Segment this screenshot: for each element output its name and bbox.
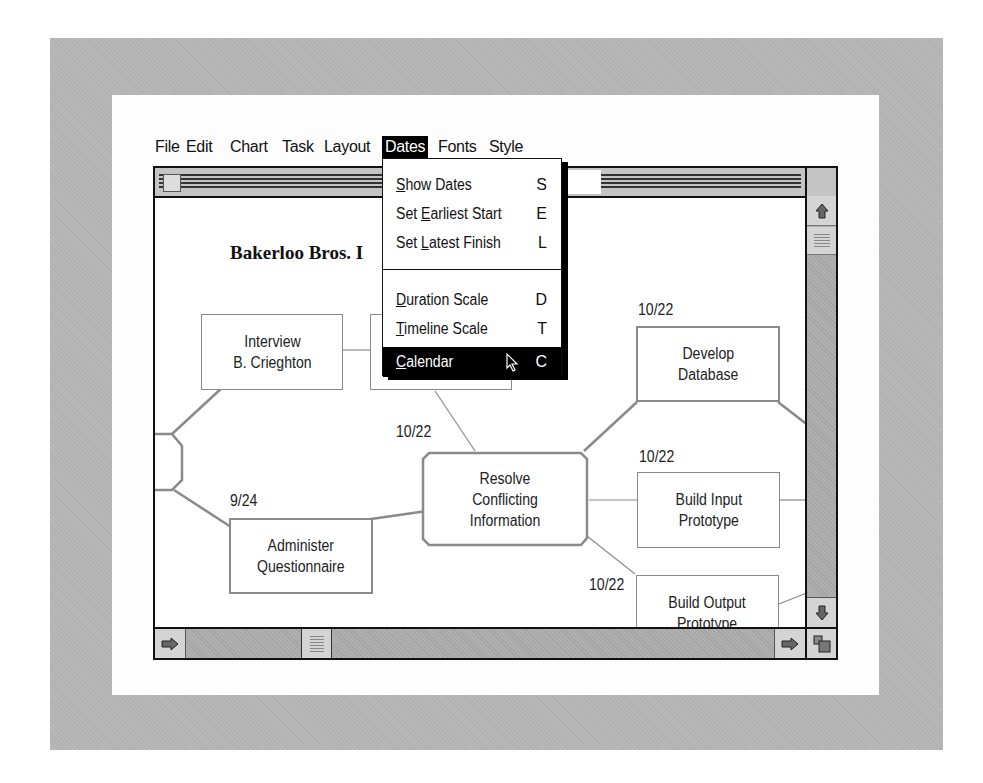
menu-task[interactable]: Task (282, 136, 314, 158)
node-label: Develop (678, 343, 738, 364)
node-label: Conflicting (470, 489, 540, 510)
menu-style[interactable]: Style (489, 136, 523, 158)
task-node-build-output[interactable]: Build OutputPrototype (636, 575, 779, 627)
menu-layout[interactable]: Layout (324, 136, 370, 158)
menu-item-set-latest-finish[interactable]: Set Latest Finish L (383, 230, 561, 256)
vertical-scroll-thumb[interactable] (807, 227, 836, 255)
menu-dates[interactable]: Dates (382, 136, 428, 158)
node-label: Build Input (675, 489, 742, 510)
menu-item-duration-scale[interactable]: Duration Scale D (383, 287, 561, 313)
arrow-down-icon (815, 605, 829, 621)
resize-icon (813, 635, 831, 653)
node-label: Prototype (675, 510, 742, 531)
zoom-box[interactable] (805, 168, 836, 198)
chart-title: Bakerloo Bros. I (230, 242, 363, 264)
task-node-administer[interactable]: AdministerQuestionnaire (229, 518, 373, 594)
node-label: Questionnaire (257, 556, 345, 577)
scroll-down-button[interactable] (807, 597, 836, 627)
arrow-up-icon (815, 203, 829, 219)
shortcut-key: T (537, 316, 547, 342)
date-label: 10/22 (638, 301, 673, 319)
node-label: Resolve (470, 468, 540, 489)
menu-chart[interactable]: Chart (230, 136, 268, 158)
task-node-build-input[interactable]: Build InputPrototype (637, 472, 780, 548)
size-box[interactable] (805, 627, 836, 658)
menu-separator (383, 269, 561, 270)
menu-fonts[interactable]: Fonts (438, 136, 477, 158)
vertical-scrollbar[interactable] (805, 196, 836, 627)
node-label: Prototype (669, 613, 746, 627)
scroll-right-button[interactable] (774, 629, 805, 658)
menu-item-calendar[interactable]: Calendar C (383, 347, 561, 377)
grip-icon (310, 636, 324, 652)
shortcut-key: S (536, 172, 547, 198)
task-node-resolve[interactable]: ResolveConflictingInformation (425, 455, 585, 543)
horizontal-scroll-thumb[interactable] (301, 629, 332, 658)
horizontal-scrollbar[interactable] (155, 627, 805, 658)
node-label: B. Crieghton (233, 352, 311, 373)
menu-item-timeline-scale[interactable]: Timeline Scale T (383, 316, 561, 342)
node-label: Database (678, 364, 738, 385)
menu-edit[interactable]: Edit (186, 136, 212, 158)
node-label: Administer (257, 535, 345, 556)
grip-icon (814, 234, 830, 248)
dates-menu: Show Dates S Set Earliest Start E Set La… (382, 158, 562, 376)
scroll-left-button[interactable] (155, 629, 186, 658)
task-node-interview[interactable]: InterviewB. Crieghton (201, 314, 343, 390)
shortcut-key: L (538, 230, 547, 256)
menu-item-set-earliest-start[interactable]: Set Earliest Start E (383, 201, 561, 227)
shortcut-key: D (535, 287, 547, 313)
shortcut-key: E (536, 201, 547, 227)
arrow-right-icon (781, 637, 799, 651)
node-label: Interview (233, 331, 311, 352)
mouse-cursor-icon (505, 353, 521, 373)
date-label: 10/22 (589, 576, 624, 594)
shortcut-key: C (535, 347, 547, 377)
node-label: Information (470, 510, 540, 531)
scroll-up-button[interactable] (807, 196, 836, 226)
arrow-right-icon (161, 637, 179, 651)
task-node-develop[interactable]: DevelopDatabase (636, 326, 780, 402)
node-label: Build Output (669, 592, 746, 613)
menu-file[interactable]: File (155, 136, 180, 158)
date-label: 10/22 (639, 448, 674, 466)
date-label: 9/24 (230, 492, 257, 510)
title-blank (565, 170, 601, 194)
menu-item-show-dates[interactable]: Show Dates S (383, 172, 561, 198)
date-label: 10/22 (396, 423, 431, 441)
close-box[interactable] (163, 174, 181, 192)
